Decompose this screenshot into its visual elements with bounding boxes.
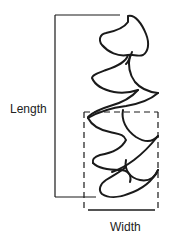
leaf-lobe-5-b: [100, 167, 158, 197]
leaf-lobe-4: [88, 118, 126, 163]
leaf-lobe-3-b: [123, 110, 158, 141]
leaf-lobe-3-inner: [88, 90, 138, 117]
wavy-leaf-outline: [88, 16, 158, 197]
diagram-canvas: Length Width: [0, 0, 171, 244]
leaf-lobe-2-right: [129, 55, 158, 93]
width-label: Width: [110, 220, 141, 234]
leaf-lobe-1: [100, 16, 148, 56]
length-label: Length: [10, 102, 47, 116]
